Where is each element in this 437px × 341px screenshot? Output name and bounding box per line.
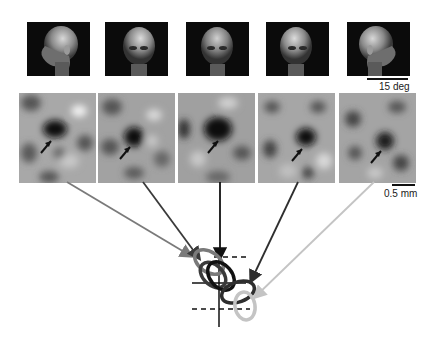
activation-map-2 [98,93,175,183]
face-image-left-three-quarter [105,22,168,76]
connector-line-5 [255,182,374,297]
connector-line-2 [143,182,199,258]
activation-map-3 [178,93,255,183]
connector-line-1 [67,182,191,256]
activation-map-4 [258,93,335,183]
scale-label-degrees: 15 deg [379,81,410,92]
connector-line-4 [251,182,298,281]
activation-map-5 [339,93,416,183]
face-image-right-three-quarter [266,22,329,76]
activation-map-1 [19,93,96,183]
face-image-frontal [186,22,249,76]
scale-bar-degrees [367,78,408,80]
scale-label-mm: 0.5 mm [384,188,417,199]
face-image-right-profile [347,22,410,76]
scale-bar-mm [392,184,415,186]
face-image-left-profile [27,22,90,76]
